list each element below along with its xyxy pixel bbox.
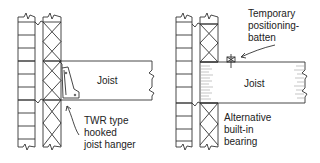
bearing-label-line1: Alternative <box>224 112 272 123</box>
joist-label-right: Joist <box>244 78 265 89</box>
batten-label-line1: Temporary <box>248 8 295 19</box>
block-wall-right <box>200 13 218 150</box>
brick-wall-left <box>18 13 43 150</box>
bearing-label-line2: built-in <box>224 124 253 135</box>
bearing-label-line3: bearing <box>224 136 257 147</box>
hanger-label-line1: TWR type <box>84 115 129 126</box>
batten-label-line2: positioning- <box>248 20 299 31</box>
joist-support-diagram: Joist TWR type hooked joist hanger Joist… <box>0 0 320 163</box>
hanger-label-line3: joist hanger <box>83 139 136 150</box>
hanger-label-line2: hooked <box>84 127 117 138</box>
joist-label-left: Joist <box>97 75 118 86</box>
block-wall-left <box>43 13 61 150</box>
hanger-callout-arrow <box>67 106 79 135</box>
batten-label-line3: batten <box>248 32 276 43</box>
positioning-batten <box>227 54 235 68</box>
batten-callout-arrow <box>241 45 275 57</box>
brick-wall-right <box>176 13 200 150</box>
joist-hanger <box>59 61 79 98</box>
